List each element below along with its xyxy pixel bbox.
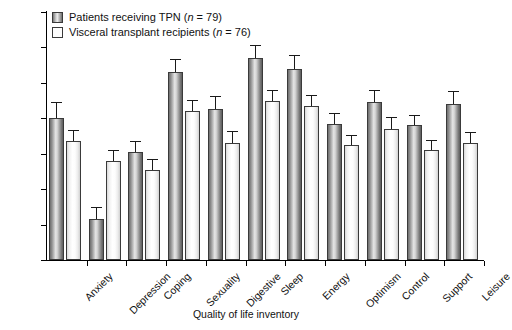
error-bar-line: [391, 118, 392, 129]
legend-item: Patients receiving TPN (n = 79): [52, 10, 251, 24]
error-bar-cap: [306, 95, 317, 96]
y-tick-label: 0: [0, 255, 36, 266]
x-tick-mark: [166, 261, 167, 266]
bar-group: [246, 12, 286, 260]
x-category-label: Sleep: [278, 270, 305, 297]
y-tick-label: 5: [0, 77, 36, 88]
x-category-label: Control: [399, 270, 431, 302]
bar-transplant: [265, 101, 280, 260]
x-category-label: Energy: [320, 270, 352, 302]
x-tick-mark: [484, 261, 485, 266]
error-bar-line: [470, 133, 471, 143]
bar-tpn: [89, 219, 104, 260]
bar-group: [405, 12, 445, 260]
error-bar-cap: [409, 115, 420, 116]
bar-group: [325, 12, 365, 260]
error-bar-cap: [147, 159, 158, 160]
x-tick-mark: [87, 261, 88, 266]
bar-transplant: [463, 143, 478, 260]
error-bar-line: [334, 114, 335, 124]
error-bar-line: [374, 91, 375, 103]
y-tick-label: 1: [0, 219, 36, 230]
error-bar-line: [414, 116, 415, 126]
error-bar-line: [272, 91, 273, 101]
error-bar-cap: [426, 140, 437, 141]
error-bar-cap: [346, 135, 357, 136]
bar-group: [166, 12, 206, 260]
error-bar-cap: [68, 130, 79, 131]
x-tick-mark: [206, 261, 207, 266]
plot-area: [47, 12, 484, 260]
error-bar-line: [152, 160, 153, 170]
y-tick-label: 6: [0, 42, 36, 53]
error-bar-line: [215, 97, 216, 109]
legend-swatch-transplant: [52, 27, 63, 38]
error-bar-line: [113, 151, 114, 161]
bar-tpn: [49, 118, 64, 260]
error-bar-line: [232, 132, 233, 143]
bar-group: [444, 12, 484, 260]
error-bar-line: [311, 96, 312, 106]
x-tick-mark: [285, 261, 286, 266]
bar-transplant: [344, 145, 359, 260]
x-category-label: Optimism: [363, 270, 403, 310]
error-bar-cap: [329, 113, 340, 114]
bar-transplant: [225, 143, 240, 260]
error-bar-cap: [289, 55, 300, 56]
error-bar-line: [175, 60, 176, 72]
x-tick-mark: [126, 261, 127, 266]
x-tick-mark: [246, 261, 247, 266]
error-bar-line: [73, 131, 74, 142]
legend-item: Visceral transplant recipients (n = 76): [52, 25, 251, 39]
error-bar-cap: [369, 90, 380, 91]
x-category-label: Anxiety: [82, 270, 115, 303]
x-category-label: Digestive: [243, 270, 282, 309]
bar-tpn: [287, 69, 302, 260]
error-bar-cap: [250, 45, 261, 46]
x-tick-mark: [405, 261, 406, 266]
bar-groups: [47, 12, 484, 260]
error-bar-line: [431, 141, 432, 151]
bar-group: [47, 12, 87, 260]
bar-tpn: [327, 124, 342, 260]
error-bar-cap: [51, 102, 62, 103]
error-bar-cap: [108, 150, 119, 151]
bar-transplant: [424, 150, 439, 260]
error-bar-line: [135, 142, 136, 152]
error-bar-cap: [448, 91, 459, 92]
bar-group: [87, 12, 127, 260]
error-bar-cap: [187, 100, 198, 101]
legend-label-transplant: Visceral transplant recipients (n = 76): [69, 26, 251, 38]
bar-transplant: [106, 161, 121, 260]
x-category-label: Sexuality: [203, 270, 242, 309]
error-bar-line: [453, 92, 454, 104]
error-bar-line: [294, 56, 295, 68]
bar-tpn: [248, 58, 263, 260]
x-axis-title: Quality of life inventory: [193, 308, 299, 320]
bar-group: [206, 12, 246, 260]
error-bar-cap: [210, 96, 221, 97]
error-bar-line: [56, 103, 57, 118]
bar-group: [285, 12, 325, 260]
error-bar-line: [192, 101, 193, 112]
bar-tpn: [446, 104, 461, 260]
bar-transplant: [185, 111, 200, 260]
error-bar-cap: [465, 132, 476, 133]
bar-transplant: [304, 106, 319, 260]
error-bar-cap: [130, 141, 141, 142]
x-tick-mark: [444, 261, 445, 266]
y-tick-mark: [41, 260, 47, 261]
bar-tpn: [168, 72, 183, 260]
x-category-label: Support: [440, 270, 474, 304]
bar-tpn: [367, 102, 382, 260]
bar-transplant: [145, 170, 160, 260]
legend-swatch-tpn: [52, 12, 63, 23]
bar-tpn: [208, 109, 223, 260]
error-bar-cap: [170, 59, 181, 60]
error-bar-cap: [227, 131, 238, 132]
y-tick-label: 4: [0, 113, 36, 124]
x-tick-mark: [325, 261, 326, 266]
error-bar-line: [255, 46, 256, 58]
legend-label-tpn: Patients receiving TPN (n = 79): [69, 11, 222, 23]
y-tick-label: 7: [0, 7, 36, 18]
